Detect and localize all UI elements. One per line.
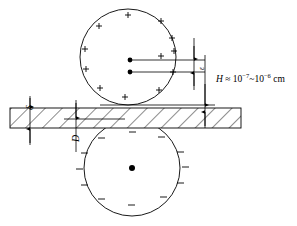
lower-center-dot	[129, 165, 135, 171]
gap-dimension-label: H ≈ 10−7~10−6 cm	[216, 75, 285, 85]
upper-sphere-group	[80, 9, 205, 105]
gap-mantissa-low: 10	[233, 74, 243, 84]
plate-hatched-body	[10, 108, 241, 128]
depth-label: D	[71, 135, 81, 142]
upper-center-dot-bottom	[128, 70, 133, 75]
gap-symbol: H	[216, 74, 223, 84]
plate-group	[10, 108, 241, 128]
separation-label: ε	[198, 67, 206, 70]
diagram-canvas	[0, 0, 297, 226]
gap-mantissa-high: 10	[254, 74, 264, 84]
plate-thickness-label: δ	[25, 105, 35, 110]
gap-exponent-high: −6	[264, 72, 271, 79]
positive-sphere-outline	[80, 9, 176, 105]
gap-approx-sign: ≈	[223, 74, 233, 84]
gap-units-text: cm	[273, 74, 285, 84]
upper-center-dot-top	[128, 58, 133, 63]
figure-container: H ≈ 10−7~10−6 cm δ D ε	[0, 0, 297, 226]
lower-sphere-group	[76, 120, 189, 216]
